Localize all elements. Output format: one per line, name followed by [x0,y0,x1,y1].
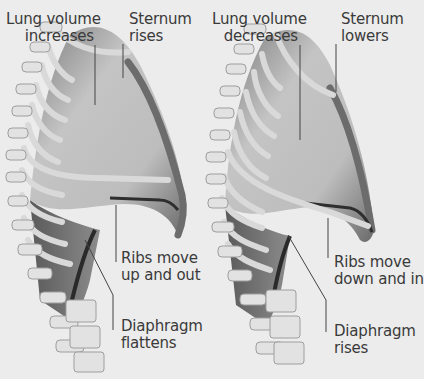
label-sternum-inhale: Sternum rises [129,11,192,45]
exhalation-ribcage [206,24,374,364]
label-diaphragm-inhale: Diaphragm flattens [121,318,203,352]
label-ribs-exhale: Ribs move down and in [334,254,424,288]
label-ribs-inhale: Ribs move up and out [121,250,200,284]
label-lung-volume-exhale: Lung volume decreases [212,11,298,45]
label-diaphragm-exhale: Diaphragm rises [334,323,416,357]
label-lung-volume-inhale: Lung volume increases [6,11,94,45]
label-sternum-exhale: Sternum lowers [341,11,404,45]
